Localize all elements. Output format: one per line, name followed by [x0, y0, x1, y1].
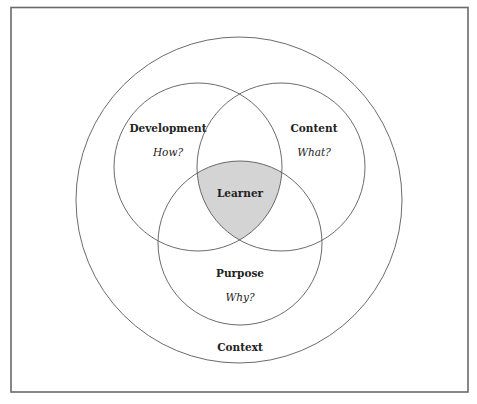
content-question: What?	[297, 146, 331, 158]
purpose-question: Why?	[225, 291, 254, 303]
learner-label: Learner	[217, 187, 264, 199]
purpose-label: Purpose	[216, 267, 264, 279]
content-label: Content	[290, 122, 337, 134]
development-label: Development	[129, 122, 206, 134]
venn-diagram: Development How? Content What? Learner P…	[0, 0, 477, 404]
context-label: Context	[217, 341, 263, 353]
development-question: How?	[152, 146, 183, 158]
